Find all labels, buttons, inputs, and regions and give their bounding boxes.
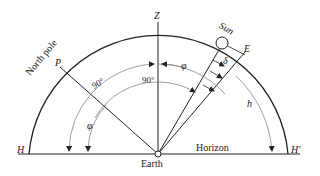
label-sun: Sun xyxy=(217,20,235,37)
arc-90-inner xyxy=(95,82,158,118)
label-90-inner: 90° xyxy=(142,75,155,85)
label-horizon: Horizon xyxy=(196,142,229,153)
label-phi-top: φ xyxy=(181,60,187,71)
label-h-left: H xyxy=(16,144,25,155)
label-h-angle: h xyxy=(247,98,252,109)
label-zenith: Z xyxy=(154,10,160,21)
label-delta: δ xyxy=(223,55,228,66)
arc-h xyxy=(236,76,272,151)
label-h-right: H' xyxy=(290,144,301,155)
label-phi-left: φ xyxy=(87,120,93,131)
label-90-outer: 90° xyxy=(90,76,106,91)
celestial-sphere-diagram: Z Sun E North pole P H H' Horizon Earth … xyxy=(0,0,320,176)
earth-circle xyxy=(155,151,161,157)
equator-line xyxy=(158,52,245,154)
sun-line xyxy=(158,48,220,154)
label-p: P xyxy=(54,57,61,68)
label-earth: Earth xyxy=(141,158,163,169)
sun-circle xyxy=(216,37,228,49)
label-e: E xyxy=(243,43,250,54)
